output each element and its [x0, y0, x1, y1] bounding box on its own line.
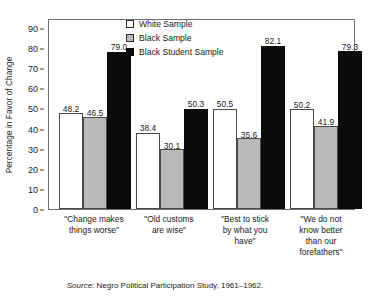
x-category-label: "Best to stick by what you have" [204, 214, 286, 247]
x-category-line: "Change makes [50, 214, 138, 225]
bar-white-sample[interactable]: 50.2 [290, 109, 314, 209]
x-category-line: "Old customs [130, 214, 208, 225]
chart-figure: Percentage in Favor of Change 90 80 70 6… [0, 0, 369, 299]
x-category-label: "Change makes things worse" [50, 214, 138, 236]
y-tick-mark [40, 149, 44, 150]
bar-value-label: 82.1 [265, 36, 281, 46]
bar-group: 48.2 46.5 79.0 [59, 20, 131, 209]
y-tick-mark [40, 89, 44, 90]
y-axis-tick-marks [0, 19, 48, 210]
source-text: Negro Political Participation Study, 196… [97, 281, 264, 290]
legend-swatch-icon [126, 34, 134, 42]
x-category-line: than our [282, 236, 360, 247]
y-tick-mark [40, 109, 44, 110]
x-axis-category-labels: "Change makes things worse" "Old customs… [48, 214, 355, 276]
bar-value-label: 38.4 [140, 123, 156, 133]
bar-white-sample[interactable]: 38.4 [136, 133, 160, 209]
bar-value-label: 50.5 [217, 99, 233, 109]
bar-black-sample[interactable]: 30.1 [160, 149, 184, 209]
y-tick-mark [40, 28, 44, 29]
legend-item-label: Black Sample [139, 33, 192, 43]
bar-black-student-sample[interactable]: 79.3 [338, 51, 362, 209]
x-category-label: "Old customs are wise" [130, 214, 208, 236]
bar-black-sample[interactable]: 35.6 [237, 138, 261, 209]
bar-value-label: 50.2 [294, 100, 310, 110]
x-category-line: "We do not [282, 214, 360, 225]
legend-item-black-sample[interactable]: Black Sample [126, 31, 256, 44]
bar-value-label: 35.6 [241, 130, 257, 140]
bar-value-label: 79.0 [111, 42, 127, 52]
x-category-label: "We do not know better than our forefath… [282, 214, 360, 258]
bar-value-label: 46.5 [87, 108, 103, 118]
bar-black-sample[interactable]: 41.9 [314, 126, 338, 209]
x-category-line: things worse" [50, 225, 138, 236]
x-category-line: forefathers" [282, 247, 360, 258]
x-category-line: have" [204, 236, 286, 247]
source-note: Source: Negro Political Participation St… [0, 280, 330, 291]
y-tick-mark [40, 169, 44, 170]
y-tick-mark [40, 189, 44, 190]
legend-item-white-sample[interactable]: White Sample [126, 17, 256, 30]
legend-item-black-student-sample[interactable]: Black Student Sample [126, 45, 256, 58]
bar-white-sample[interactable]: 48.2 [59, 113, 83, 209]
x-category-line: are wise" [130, 225, 208, 236]
bar-black-student-sample[interactable]: 79.0 [107, 52, 131, 209]
y-tick-mark [40, 129, 44, 130]
legend-item-label: Black Student Sample [139, 47, 224, 57]
y-tick-mark [40, 69, 44, 70]
legend-item-label: White Sample [139, 19, 193, 29]
x-category-line: by what you [204, 225, 286, 236]
x-category-line: "Best to stick [204, 214, 286, 225]
y-tick-mark [40, 49, 44, 50]
bar-group: 50.2 41.9 79.3 [290, 20, 362, 209]
bar-white-sample[interactable]: 50.5 [213, 109, 237, 209]
x-category-line: know better [282, 225, 360, 236]
legend-swatch-icon [126, 20, 134, 28]
source-prefix: Source: [67, 281, 95, 290]
bar-black-student-sample[interactable]: 82.1 [261, 46, 285, 209]
bar-value-label: 30.1 [164, 141, 180, 151]
bar-value-label: 48.2 [63, 104, 79, 114]
bar-value-label: 41.9 [318, 117, 334, 127]
y-tick-mark [40, 210, 44, 211]
bar-black-student-sample[interactable]: 50.3 [184, 109, 208, 209]
bar-value-label: 79.3 [342, 42, 358, 52]
bar-value-label: 50.3 [188, 99, 204, 109]
chart-legend: White Sample Black Sample Black Student … [126, 17, 256, 59]
bar-black-sample[interactable]: 46.5 [83, 117, 107, 210]
